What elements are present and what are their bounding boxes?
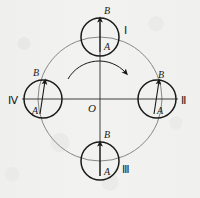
label-A-IV: A xyxy=(31,105,39,116)
roman-numeral-IV: Ⅳ xyxy=(8,94,19,106)
label-B-I: B xyxy=(104,5,110,16)
label-B-IV: B xyxy=(33,67,39,78)
position-marker-IV: B A Ⅳ xyxy=(8,67,62,118)
roman-numeral-I: Ⅰ xyxy=(124,24,127,36)
label-B-III: B xyxy=(104,129,110,140)
label-A-II: A xyxy=(156,105,164,116)
label-B-II: B xyxy=(158,69,164,80)
vector-arrow-IV xyxy=(40,81,45,114)
position-marker-III: B A Ⅲ xyxy=(81,129,130,180)
physics-rotation-figure: O B A Ⅰ B A Ⅱ B A Ⅲ B A Ⅳ xyxy=(0,0,200,198)
roman-numeral-II: Ⅱ xyxy=(181,94,186,106)
label-A-III: A xyxy=(103,166,111,177)
label-A-I: A xyxy=(103,41,111,52)
position-marker-I: B A Ⅰ xyxy=(81,5,127,56)
roman-numeral-III: Ⅲ xyxy=(122,163,130,175)
clockwise-rotation-arrow xyxy=(68,61,126,79)
origin-label: O xyxy=(88,102,96,114)
diagram-canvas: O B A Ⅰ B A Ⅱ B A Ⅲ B A Ⅳ xyxy=(0,0,200,198)
